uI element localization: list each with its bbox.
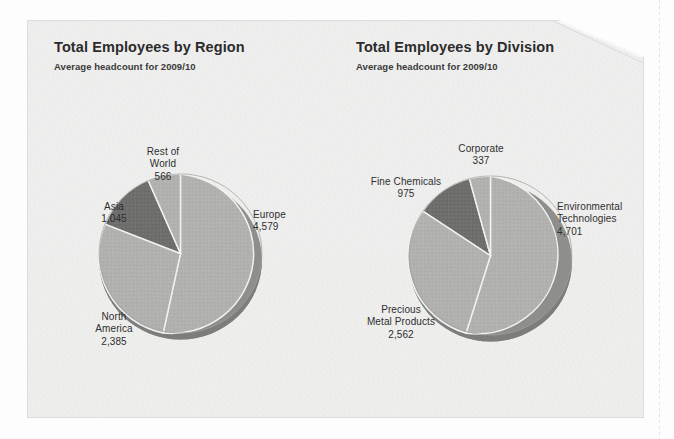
pie-label-corporate: Corporate 337 <box>443 143 519 168</box>
pie-label-environmental-technologies: Environmental Technologies 4,701 <box>557 201 644 238</box>
pie-label-europe: Europe 4,579 <box>253 209 333 234</box>
panel-employees-by-region: Total Employees by Region Average headco… <box>28 21 333 417</box>
panel-employees-by-division: Total Employees by Division Average head… <box>333 21 643 417</box>
pie-label-precious-metal-products: Precious Metal Products 2,562 <box>353 304 449 341</box>
page-subtitle-division: Average headcount for 2009/10 <box>356 61 498 72</box>
chart-card: Total Employees by Region Average headco… <box>27 20 644 418</box>
page-title-region: Total Employees by Region <box>54 39 245 55</box>
page-margin-rule <box>659 0 660 439</box>
pie-label-fine-chemicals: Fine Chemicals 975 <box>361 176 451 201</box>
pie-label-rest-of-world: Rest of World 566 <box>128 146 198 183</box>
page-title-division: Total Employees by Division <box>356 39 554 55</box>
pie-label-asia: Asia 1,045 <box>83 201 145 226</box>
pie-label-north-america: North America 2,385 <box>76 311 152 348</box>
page-subtitle-region: Average headcount for 2009/10 <box>54 61 196 72</box>
